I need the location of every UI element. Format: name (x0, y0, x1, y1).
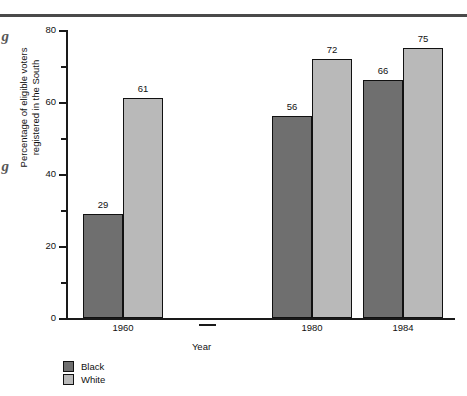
y-tick-30 (61, 210, 67, 212)
x-axis-title-text: Year (192, 341, 211, 352)
bar-1980-white[interactable] (312, 59, 352, 318)
bar-1984-white[interactable] (403, 48, 443, 318)
bar-1960-black[interactable] (83, 214, 123, 318)
x-tick-label-1980: 1980 (272, 323, 352, 333)
y-tick-label-20: 20 (16, 241, 56, 251)
y-tick-20 (59, 246, 67, 248)
x-axis-title: Year (0, 341, 467, 352)
y-axis-title-line-1: Percentage of eligible voters (18, 18, 30, 198)
legend-swatch-black-icon (63, 361, 74, 372)
y-axis-title-line-2: registered in the South (29, 18, 41, 198)
bar-value-1960-black: 29 (83, 200, 123, 210)
chart-plot-area: 80 60 40 20 0 Percentage of eligible vot… (0, 0, 467, 396)
x-tick-label-1960: 1960 (83, 323, 163, 333)
x-tick-label-1984: 1984 (363, 323, 443, 333)
y-tick-60 (59, 102, 67, 104)
bar-value-1980-black: 56 (272, 102, 312, 112)
y-tick-40 (59, 174, 67, 176)
legend-label-white: White (81, 375, 105, 385)
bar-value-1984-black: 66 (363, 66, 403, 76)
y-tick-80 (59, 30, 67, 32)
bar-value-1960-white: 61 (123, 84, 163, 94)
bar-1980-black[interactable] (272, 116, 312, 318)
legend-item-white[interactable]: White (63, 373, 105, 386)
bar-1960-white[interactable] (123, 98, 163, 318)
y-tick-70 (61, 66, 67, 68)
y-tick-10 (61, 282, 67, 284)
legend-item-black[interactable]: Black (63, 360, 105, 373)
x-axis-line (66, 318, 455, 320)
bar-1984-black[interactable] (363, 80, 403, 318)
bar-value-1984-white: 75 (403, 34, 443, 44)
bar-value-1980-white: 72 (312, 45, 352, 55)
y-tick-0 (59, 318, 67, 320)
legend-swatch-white-icon (63, 374, 74, 385)
x-axis-break-mark (199, 324, 216, 326)
chart-legend: Black White (63, 360, 105, 386)
legend-label-black: Black (81, 362, 104, 372)
y-axis-title: Percentage of eligible voters registered… (18, 18, 41, 198)
figure-container: g g 80 60 40 20 0 Percentage of eligible… (0, 0, 467, 396)
y-tick-label-0: 0 (16, 313, 56, 323)
y-tick-50 (61, 138, 67, 140)
